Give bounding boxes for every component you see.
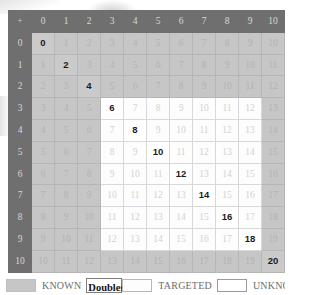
sum-cell-8-3[interactable]: 11 <box>101 207 124 229</box>
sum-cell-6-4[interactable]: 10 <box>124 163 147 185</box>
sum-cell-4-0[interactable]: 4 <box>32 119 55 141</box>
sum-cell-3-0[interactable]: 3 <box>32 98 55 120</box>
sum-cell-5-9[interactable]: 14 <box>239 141 262 163</box>
sum-cell-4-8[interactable]: 12 <box>216 119 239 141</box>
sum-cell-1-4[interactable]: 5 <box>124 54 147 76</box>
sum-cell-6-7[interactable]: 13 <box>193 163 216 185</box>
sum-cell-8-1[interactable]: 9 <box>55 207 78 229</box>
sum-cell-3-6[interactable]: 9 <box>170 98 193 120</box>
sum-cell-4-6[interactable]: 10 <box>170 119 193 141</box>
sum-cell-1-5[interactable]: 6 <box>147 54 170 76</box>
sum-cell-8-10[interactable]: 18 <box>262 207 285 229</box>
sum-cell-8-4[interactable]: 12 <box>124 207 147 229</box>
sum-cell-3-10[interactable]: 13 <box>262 98 285 120</box>
sum-cell-0-6[interactable]: 6 <box>170 32 193 54</box>
sum-cell-2-9[interactable]: 11 <box>239 76 262 98</box>
sum-cell-7-6[interactable]: 13 <box>170 185 193 207</box>
sum-cell-10-1[interactable]: 11 <box>55 250 78 272</box>
sum-cell-2-10[interactable]: 12 <box>262 76 285 98</box>
double-cell-7-7[interactable]: 14 <box>193 185 216 207</box>
sum-cell-0-8[interactable]: 8 <box>216 32 239 54</box>
sum-cell-9-3[interactable]: 12 <box>101 228 124 250</box>
sum-cell-3-4[interactable]: 7 <box>124 98 147 120</box>
double-cell-10-10[interactable]: 20 <box>262 250 285 272</box>
sum-cell-8-9[interactable]: 17 <box>239 207 262 229</box>
sum-cell-8-5[interactable]: 13 <box>147 207 170 229</box>
sum-cell-2-5[interactable]: 7 <box>147 76 170 98</box>
sum-cell-7-8[interactable]: 15 <box>216 185 239 207</box>
sum-cell-3-1[interactable]: 4 <box>55 98 78 120</box>
sum-cell-9-6[interactable]: 15 <box>170 228 193 250</box>
sum-cell-4-5[interactable]: 9 <box>147 119 170 141</box>
sum-cell-10-7[interactable]: 17 <box>193 250 216 272</box>
sum-cell-4-3[interactable]: 7 <box>101 119 124 141</box>
sum-cell-9-5[interactable]: 14 <box>147 228 170 250</box>
sum-cell-6-2[interactable]: 8 <box>78 163 101 185</box>
sum-cell-6-0[interactable]: 6 <box>32 163 55 185</box>
sum-cell-9-8[interactable]: 17 <box>216 228 239 250</box>
sum-cell-0-5[interactable]: 5 <box>147 32 170 54</box>
sum-cell-3-7[interactable]: 10 <box>193 98 216 120</box>
double-cell-0-0[interactable]: 0 <box>32 32 55 54</box>
sum-cell-9-10[interactable]: 19 <box>262 228 285 250</box>
sum-cell-0-9[interactable]: 9 <box>239 32 262 54</box>
sum-cell-4-7[interactable]: 11 <box>193 119 216 141</box>
sum-cell-6-9[interactable]: 15 <box>239 163 262 185</box>
sum-cell-5-0[interactable]: 5 <box>32 141 55 163</box>
sum-cell-0-2[interactable]: 2 <box>78 32 101 54</box>
sum-cell-1-10[interactable]: 11 <box>262 54 285 76</box>
sum-cell-2-0[interactable]: 2 <box>32 76 55 98</box>
sum-cell-0-4[interactable]: 4 <box>124 32 147 54</box>
sum-cell-2-3[interactable]: 5 <box>101 76 124 98</box>
sum-cell-5-10[interactable]: 15 <box>262 141 285 163</box>
sum-cell-9-2[interactable]: 11 <box>78 228 101 250</box>
sum-cell-1-2[interactable]: 3 <box>78 54 101 76</box>
sum-cell-7-9[interactable]: 16 <box>239 185 262 207</box>
sum-cell-8-2[interactable]: 10 <box>78 207 101 229</box>
sum-cell-10-8[interactable]: 18 <box>216 250 239 272</box>
sum-cell-3-9[interactable]: 12 <box>239 98 262 120</box>
sum-cell-4-1[interactable]: 5 <box>55 119 78 141</box>
double-cell-3-3[interactable]: 6 <box>101 98 124 120</box>
sum-cell-5-2[interactable]: 7 <box>78 141 101 163</box>
sum-cell-0-1[interactable]: 1 <box>55 32 78 54</box>
sum-cell-5-6[interactable]: 11 <box>170 141 193 163</box>
sum-cell-2-4[interactable]: 6 <box>124 76 147 98</box>
sum-cell-6-8[interactable]: 14 <box>216 163 239 185</box>
sum-cell-7-4[interactable]: 11 <box>124 185 147 207</box>
sum-cell-8-7[interactable]: 15 <box>193 207 216 229</box>
sum-cell-10-4[interactable]: 14 <box>124 250 147 272</box>
double-cell-5-5[interactable]: 10 <box>147 141 170 163</box>
sum-cell-10-0[interactable]: 10 <box>32 250 55 272</box>
sum-cell-1-6[interactable]: 7 <box>170 54 193 76</box>
sum-cell-0-7[interactable]: 7 <box>193 32 216 54</box>
sum-cell-4-2[interactable]: 6 <box>78 119 101 141</box>
sum-cell-1-3[interactable]: 4 <box>101 54 124 76</box>
sum-cell-10-3[interactable]: 13 <box>101 250 124 272</box>
sum-cell-0-3[interactable]: 3 <box>101 32 124 54</box>
sum-cell-9-1[interactable]: 10 <box>55 228 78 250</box>
sum-cell-10-2[interactable]: 12 <box>78 250 101 272</box>
sum-cell-9-7[interactable]: 16 <box>193 228 216 250</box>
sum-cell-2-6[interactable]: 8 <box>170 76 193 98</box>
sum-cell-9-0[interactable]: 9 <box>32 228 55 250</box>
sum-cell-1-8[interactable]: 9 <box>216 54 239 76</box>
sum-cell-7-2[interactable]: 9 <box>78 185 101 207</box>
sum-cell-5-3[interactable]: 8 <box>101 141 124 163</box>
sum-cell-7-5[interactable]: 12 <box>147 185 170 207</box>
double-cell-6-6[interactable]: 12 <box>170 163 193 185</box>
double-cell-8-8[interactable]: 16 <box>216 207 239 229</box>
sum-cell-2-8[interactable]: 10 <box>216 76 239 98</box>
sum-cell-4-9[interactable]: 13 <box>239 119 262 141</box>
sum-cell-0-10[interactable]: 10 <box>262 32 285 54</box>
sum-cell-6-3[interactable]: 9 <box>101 163 124 185</box>
double-cell-9-9[interactable]: 18 <box>239 228 262 250</box>
sum-cell-2-1[interactable]: 3 <box>55 76 78 98</box>
sum-cell-7-3[interactable]: 10 <box>101 185 124 207</box>
sum-cell-8-6[interactable]: 14 <box>170 207 193 229</box>
sum-cell-9-4[interactable]: 13 <box>124 228 147 250</box>
sum-cell-6-1[interactable]: 7 <box>55 163 78 185</box>
sum-cell-6-5[interactable]: 11 <box>147 163 170 185</box>
sum-cell-5-1[interactable]: 6 <box>55 141 78 163</box>
sum-cell-6-10[interactable]: 16 <box>262 163 285 185</box>
